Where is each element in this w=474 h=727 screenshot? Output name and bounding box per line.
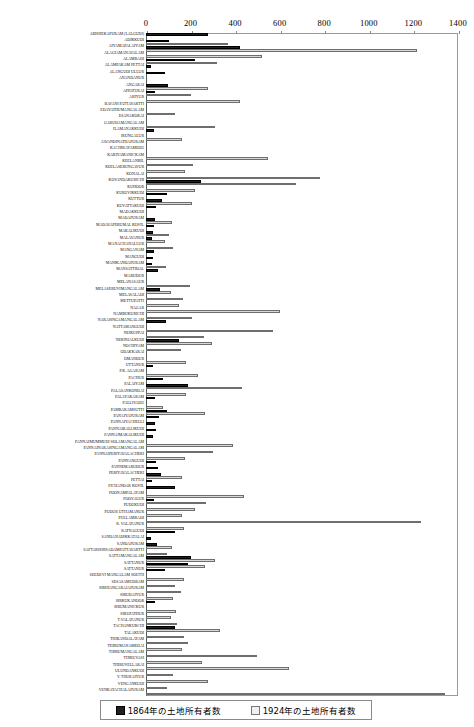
row-label: PANNAINARASINGAMANGALAM bbox=[83, 446, 144, 451]
row-label: ARIYUR bbox=[129, 95, 144, 100]
bar-1864 bbox=[146, 206, 156, 209]
row-label: MALAVANUR bbox=[120, 236, 144, 241]
row-label: NAGAR bbox=[130, 306, 144, 311]
row-label: THIRANDALAYAM bbox=[110, 637, 144, 642]
row-label: VENKATACHALAPURAM bbox=[99, 688, 144, 693]
bar-1864 bbox=[146, 480, 152, 483]
row-label: THIRUVELLARAI bbox=[113, 663, 144, 668]
row-label: KACHIRAYAMEDU bbox=[110, 146, 144, 151]
row-label: NOCHIYAM bbox=[123, 344, 144, 349]
bar-1864 bbox=[146, 65, 151, 68]
legend-label-1864: 1864年の土地所有者数 bbox=[128, 704, 222, 716]
row-label: ODAKKARAI bbox=[120, 350, 144, 355]
row-label: P.K. AGARAM bbox=[119, 369, 144, 374]
row-label: ALAGIAMANAVALAM bbox=[104, 51, 144, 56]
row-label: ANGARAI bbox=[126, 83, 144, 88]
legend-swatch-1924-icon bbox=[251, 706, 260, 715]
row-label: PALAIYAM bbox=[124, 382, 144, 387]
row-label: PANNAIYACHELLI bbox=[111, 420, 144, 425]
bar-1864 bbox=[146, 486, 175, 489]
row-label: KUHOOR bbox=[127, 185, 144, 190]
bar-1864 bbox=[146, 378, 163, 381]
table-row: VENKATACHALAPURAM bbox=[0, 690, 474, 696]
bar-1864 bbox=[146, 416, 159, 419]
row-label: POOVALUR bbox=[123, 497, 144, 502]
row-label: ALANGUDI ULLUR bbox=[110, 70, 144, 75]
legend-label-1924: 1924年の土地所有者数 bbox=[263, 704, 357, 716]
bar-1864 bbox=[146, 365, 153, 368]
bar-1864 bbox=[146, 461, 156, 464]
row-label: MELAVALADI bbox=[119, 293, 144, 298]
row-label: SAPTARISHISADAMPATTAVARTTI bbox=[83, 548, 144, 553]
row-label: PANNAIMUMMUDI SOLAMANGALAM bbox=[75, 440, 144, 445]
row-label: JAVANDINATHAPURAM bbox=[101, 140, 144, 145]
row-label: MADAVAPERUMAL KOVIL bbox=[96, 223, 144, 228]
row-label: PETTAI bbox=[131, 478, 144, 483]
row-label: GARUDAMANGALAM bbox=[104, 121, 144, 126]
bar-1864 bbox=[146, 72, 165, 75]
row-label: NAMBUKURICHI bbox=[113, 312, 144, 317]
x-axis-tick-0: 0 bbox=[144, 18, 148, 28]
row-label: SEEDEVI MANGALAM SOUTH bbox=[90, 573, 144, 578]
row-label: ALAMBADI bbox=[123, 57, 144, 62]
row-label: MANSATTIDAL bbox=[116, 267, 144, 272]
row-label: IRUNGALUR bbox=[121, 134, 144, 139]
row-label: EDAYATHUMANGALAM bbox=[100, 108, 144, 113]
bar-1864 bbox=[146, 435, 153, 438]
row-label: MELASERUVIMANGALAM bbox=[96, 287, 144, 292]
bar-1924 bbox=[146, 693, 445, 696]
row-label: PANNAIBALLIKUDI bbox=[108, 427, 144, 432]
row-label: SIRUMANICKUR bbox=[114, 605, 144, 610]
row-label: TACHANKURCHI bbox=[113, 624, 144, 629]
bar-1864 bbox=[146, 467, 158, 470]
row-label: THIRUMANGALAM bbox=[109, 650, 144, 655]
x-axis-tick-1400: 1400 bbox=[449, 18, 467, 28]
row-label: TALAKUDI bbox=[124, 631, 144, 636]
row-label: PANNEMARUDUR bbox=[112, 465, 145, 470]
row-label: SIRUDAIYUR bbox=[120, 593, 144, 598]
x-axis-tick-labels: 0200400600800100012001400 bbox=[0, 18, 474, 32]
row-label: SIRKUKANOOR bbox=[116, 599, 144, 604]
row-label: R. VALAYANUR bbox=[116, 522, 144, 527]
legend-item-1924: 1924年の土地所有者数 bbox=[251, 704, 357, 716]
row-label: NEIKUPPAI bbox=[124, 331, 144, 336]
row-label: PICHANDAR KOVIL bbox=[108, 484, 144, 489]
x-axis-tick-200: 200 bbox=[184, 18, 197, 28]
bar-1864 bbox=[146, 269, 158, 272]
row-label: SATTANUR bbox=[124, 567, 144, 572]
row-label: NATTAMANGUDI bbox=[113, 325, 144, 330]
row-label: MADAKKUDI bbox=[120, 210, 144, 215]
row-label: MANGUDI bbox=[125, 255, 144, 260]
row-label: ANANDANUR bbox=[119, 76, 144, 81]
row-label: SESASAMUDRAM bbox=[112, 580, 144, 585]
row-label: ADIKKUDI bbox=[125, 38, 144, 43]
row-label: MARUDUR bbox=[124, 274, 144, 279]
row-label: PALASANKONDAI bbox=[111, 389, 144, 394]
row-label: SATTANUR bbox=[124, 561, 144, 566]
legend-swatch-1864-icon bbox=[116, 706, 125, 715]
row-label: PULLAMBADI bbox=[118, 516, 144, 521]
x-axis-tick-1000: 1000 bbox=[360, 18, 378, 28]
row-label: VENGANKUDI bbox=[118, 682, 144, 687]
row-label: METTUPATTI bbox=[120, 299, 144, 304]
row-label: OMANDUR bbox=[124, 357, 144, 362]
row-label: ILAMANAKKUDI bbox=[113, 127, 144, 132]
x-axis-tick-400: 400 bbox=[228, 18, 241, 28]
row-label: MANIKANDAPURAM bbox=[106, 261, 144, 266]
row-label: KOVANDAKURICHI bbox=[109, 178, 144, 183]
bar-1864 bbox=[146, 320, 166, 323]
x-axis-tick-800: 800 bbox=[318, 18, 331, 28]
row-label: SIRIHANGARAJAPURAM bbox=[99, 586, 144, 591]
row-label: ABISHEKAPURAM (LALGUDI) bbox=[90, 32, 144, 37]
row-label: KARIYAMANICKAM bbox=[107, 153, 144, 158]
bar-1864 bbox=[146, 601, 155, 604]
row-label: PACHUR bbox=[129, 376, 144, 381]
bar-1864 bbox=[146, 537, 151, 540]
row-label: PAMBARAMSUTTI bbox=[111, 408, 144, 413]
row-label: THIRUVASI bbox=[124, 656, 144, 661]
row-label: MAKALIKUDI bbox=[119, 229, 144, 234]
row-label: KUVATTAKUDI bbox=[117, 204, 144, 209]
row-label: MELANASAUR bbox=[117, 280, 144, 285]
row-label: PANNANGUDI bbox=[118, 459, 144, 464]
row-label: NERINJALKUDI bbox=[116, 338, 144, 343]
